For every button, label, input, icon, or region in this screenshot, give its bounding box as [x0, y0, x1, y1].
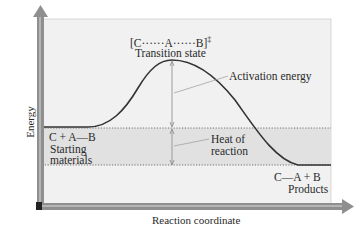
y-axis-arrowhead	[33, 5, 48, 17]
starting-materials-formula: C + A—B	[49, 131, 96, 143]
double-dagger-icon: ‡	[207, 35, 211, 44]
x-axis-arrowhead	[342, 199, 354, 214]
products-label: Products	[288, 183, 328, 195]
y-axis-label: Energy	[24, 92, 36, 152]
transition-state-label: Transition state	[135, 47, 206, 59]
heat-of-reaction-label-line2: reaction	[211, 145, 248, 157]
y-axis-highlight	[39, 16, 41, 208]
activation-energy-label: Activation energy	[229, 70, 312, 82]
heat-of-reaction-label-line1: Heat of	[211, 133, 245, 145]
origin-marker	[36, 202, 42, 210]
starting-materials-label-line2: materials	[50, 154, 92, 166]
products-formula: C—A + B	[274, 171, 321, 183]
x-axis-label: Reaction coordinate	[152, 214, 240, 226]
x-axis-highlight	[36, 205, 344, 207]
